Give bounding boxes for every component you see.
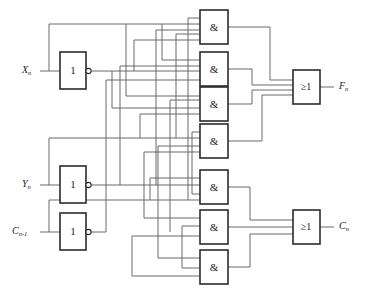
and-gate-4[interactable]: & xyxy=(200,124,228,158)
wire-and5-to-or-carry xyxy=(228,187,293,220)
inverter-gate-yn[interactable]: 1 xyxy=(60,166,91,203)
inverter-yn-bubble-icon xyxy=(86,182,91,187)
inverter-cn1-bubble-icon xyxy=(86,229,91,234)
input-xn-sub: n xyxy=(28,69,31,76)
input-label-xn: Xn xyxy=(21,64,31,76)
output-fn-sub: n xyxy=(345,85,348,92)
input-label-yn: Yn xyxy=(22,178,31,190)
input-yn-sub: n xyxy=(28,183,31,190)
and-gate-6[interactable]: & xyxy=(200,210,228,244)
output-label-fn: Fn xyxy=(338,80,348,92)
and-gate-3-label: & xyxy=(210,98,219,110)
inverter-cn1-label: 1 xyxy=(70,225,76,237)
carry-input-wires xyxy=(132,132,200,276)
and-gate-2[interactable]: & xyxy=(200,52,228,86)
and-gate-7[interactable]: & xyxy=(200,250,228,284)
inverter-gate-xn[interactable]: 1 xyxy=(60,52,91,89)
and-to-or-wires xyxy=(228,27,293,267)
and-gate-1[interactable]: & xyxy=(200,10,228,44)
wire-and1-to-or-sum xyxy=(228,27,293,80)
input-wires xyxy=(40,71,60,232)
wire-and4-to-or-sum xyxy=(228,95,293,141)
wire-and7-to-or-carry xyxy=(228,234,293,267)
svg-text:Cn-1: Cn-1 xyxy=(12,225,27,237)
or-gate-carry-label: ≥1 xyxy=(301,221,312,232)
output-cn-sub: n xyxy=(346,225,349,232)
and-gate-6-label: & xyxy=(210,221,219,233)
svg-text:Cn: Cn xyxy=(339,220,349,232)
input-cn1-sub: n-1 xyxy=(19,230,28,237)
and-gate-1-label: & xyxy=(210,21,219,33)
and-gate-4-label: & xyxy=(210,135,219,147)
inverter-yn-label: 1 xyxy=(70,178,76,190)
svg-text:Xn: Xn xyxy=(21,64,31,76)
output-wires xyxy=(320,87,334,227)
inverter-gate-cn1[interactable]: 1 xyxy=(60,213,91,250)
and-gate-5[interactable]: & xyxy=(200,170,228,204)
and-gate-7-label: & xyxy=(210,261,219,273)
and-gate-5-label: & xyxy=(210,181,219,193)
or-gate-carry[interactable]: ≥1 xyxy=(293,210,320,244)
svg-text:Yn: Yn xyxy=(22,178,31,190)
wire-and3-to-or-sum xyxy=(228,90,293,104)
inverter-xn-bubble-icon xyxy=(86,68,91,73)
or-gate-sum-label: ≥1 xyxy=(301,81,312,92)
svg-text:Fn: Fn xyxy=(338,80,348,92)
input-label-cn1: Cn-1 xyxy=(12,225,27,237)
and-gate-2-label: & xyxy=(210,63,219,75)
inverter-xn-label: 1 xyxy=(70,64,76,76)
or-gate-sum[interactable]: ≥1 xyxy=(293,70,320,104)
output-label-cn: Cn xyxy=(339,220,349,232)
circuit-canvas: 1 1 1 & & & & xyxy=(0,0,365,296)
logic-circuit-diagram: 1 1 1 & & & & xyxy=(0,0,365,296)
wire-and2-to-or-sum xyxy=(228,69,293,85)
and-gate-3[interactable]: & xyxy=(200,87,228,121)
